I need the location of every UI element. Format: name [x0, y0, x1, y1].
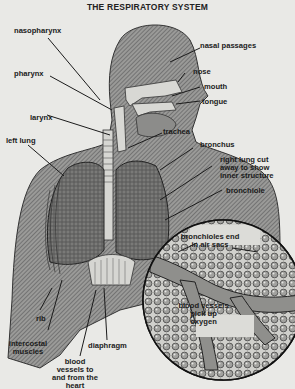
label-left-lung: left lung	[6, 137, 36, 145]
label-blood-vessels-heart: blood vessels to and from the heart	[50, 358, 100, 389]
label-mouth: mouth	[204, 83, 227, 91]
label-bronchioles-end-in-air-sacs: bronchioles end in air sacs	[180, 233, 240, 249]
label-nose: nose	[193, 68, 211, 76]
label-blood-vessels-pick-up-oxygen: blood vessels pick up oxygen	[176, 302, 231, 326]
label-right-lung-cut: right lung cut away to show inner struct…	[220, 156, 280, 180]
diagram-title: THE RESPIRATORY SYSTEM	[0, 2, 295, 12]
label-nasopharynx: nasopharynx	[14, 27, 61, 35]
label-bronchus: bronchus	[200, 141, 235, 149]
label-pharynx: pharynx	[14, 70, 44, 78]
label-diaphragm: diaphragm	[88, 342, 127, 350]
label-rib: rib	[36, 315, 46, 323]
label-trachea: trachea	[163, 128, 190, 136]
label-tongue: tongue	[202, 98, 227, 106]
label-nasal-passages: nasal passages	[200, 42, 256, 50]
respiratory-system-diagram: THE RESPIRATORY SYSTEM nasopharynx nasal…	[0, 0, 295, 389]
label-intercostal-muscles: intercostal muscles	[8, 340, 48, 356]
label-bronchiole: bronchiole	[226, 187, 265, 195]
diaphragm	[88, 255, 135, 286]
label-larynx: larynx	[30, 114, 52, 122]
